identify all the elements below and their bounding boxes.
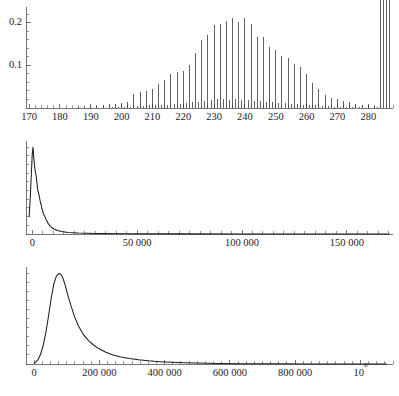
x-tick-label-1: 270 xyxy=(330,111,346,122)
line-chart-wide-svg: 0200 000400 000600 000800 000106 xyxy=(0,260,399,396)
bar-histogram-svg: 0.10.21701801902002102202302402502602702… xyxy=(0,0,399,132)
x-tick-label-2: 100 000 xyxy=(225,237,259,248)
x-tick-label-2: 50 000 xyxy=(123,237,152,248)
x-tick-label-1: 210 xyxy=(145,111,161,122)
distribution-curve-3 xyxy=(34,273,386,364)
x-tick-label-1: 180 xyxy=(52,111,68,122)
x-tick-label-3: 200 000 xyxy=(82,367,116,378)
x-tick-label-1: 190 xyxy=(83,111,99,122)
distribution-curve-2 xyxy=(29,147,389,234)
x-tick-label-1: 280 xyxy=(360,111,376,122)
x-tick-label-1: 220 xyxy=(175,111,191,122)
x-tick-label-1: 230 xyxy=(206,111,222,122)
x-tick-label-1: 170 xyxy=(21,111,37,122)
x-tick-label-3: 800 000 xyxy=(278,367,312,378)
x-tick-label-1: 250 xyxy=(268,111,284,122)
x-tick-label-3: 0 xyxy=(32,367,37,378)
x-tick-label-1: 260 xyxy=(299,111,315,122)
x-tick-label-2: 150 000 xyxy=(330,237,364,248)
bar-group xyxy=(72,0,390,108)
three-panel-figure: 0.10.21701801902002102202302402502602702… xyxy=(0,0,399,396)
x-tick-label-1: 200 xyxy=(114,111,130,122)
line-chart-narrow-svg: 050 000100 000150 000 xyxy=(0,134,399,260)
x-tick-label-3: 600 000 xyxy=(213,367,247,378)
x-tick-label-2: 0 xyxy=(30,237,35,248)
chart-panel-bar-histogram: 0.10.21701801902002102202302402502602702… xyxy=(0,0,399,132)
chart-panel-line-narrow: 050 000100 000150 000 xyxy=(0,134,399,260)
chart-panel-line-wide: 0200 000400 000600 000800 000106 xyxy=(0,260,399,396)
y-tick-label-1: 0.2 xyxy=(9,16,22,27)
y-tick-label-1: 0.1 xyxy=(9,59,22,70)
x-tick-label-3: 400 000 xyxy=(148,367,182,378)
x-tick-label-1: 240 xyxy=(237,111,253,122)
